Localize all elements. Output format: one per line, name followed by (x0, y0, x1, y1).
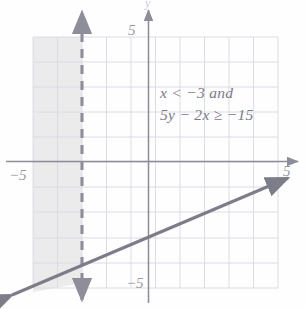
y-axis-label-negative-5: −5 (126, 275, 144, 292)
coordinate-plane-svg (0, 0, 306, 309)
inequality-annotation-line1: x < −3 and (160, 84, 233, 102)
y-axis-label-positive-5: 5 (128, 22, 136, 39)
y-axis-name-label: y (145, 0, 150, 11)
graph-figure: x < −3 and 5y − 2x ≥ −15 −5 5 5 −5 y (0, 0, 306, 309)
x-axis-label-positive-5: 5 (283, 163, 291, 180)
inequality-annotation-line2: 5y − 2x ≥ −15 (160, 106, 254, 124)
x-axis-label-negative-5: −5 (9, 167, 27, 184)
